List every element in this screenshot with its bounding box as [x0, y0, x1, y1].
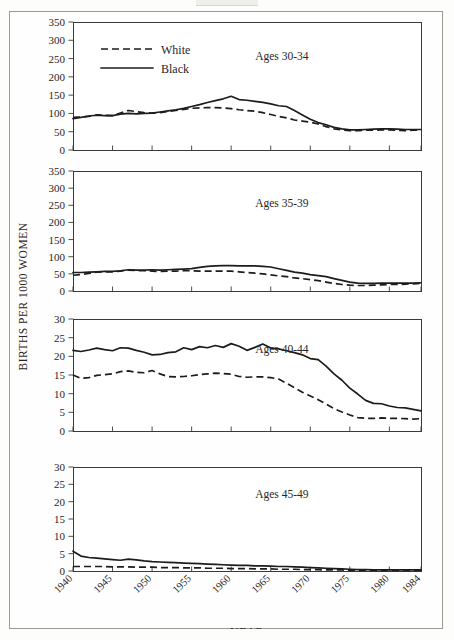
y-tick-label: 15: [54, 369, 66, 381]
x-tick-label: 1975: [329, 573, 352, 596]
legend-label-white: White: [161, 43, 190, 57]
panel-title: Ages 30-34: [255, 50, 309, 63]
panel-4: 051015202530Ages 45-49: [54, 461, 422, 577]
y-tick-label: 50: [54, 126, 66, 138]
y-tick-label: 0: [60, 285, 66, 297]
y-tick-label: 100: [49, 107, 66, 119]
y-tick-label: 0: [60, 144, 66, 156]
y-tick-label: 20: [54, 350, 66, 362]
y-tick-label: 25: [54, 478, 66, 490]
y-tick-label: 20: [54, 496, 66, 508]
panel-title: Ages 45-49: [255, 488, 309, 501]
y-tick-label: 0: [60, 425, 66, 437]
y-tick-label: 30: [54, 313, 66, 325]
y-tick-label: 300: [49, 182, 66, 194]
panel-frame: [74, 320, 422, 432]
x-tick-label: 1984: [400, 572, 423, 595]
x-tick-label: 1955: [170, 573, 193, 596]
y-tick-label: 350: [49, 165, 66, 177]
y-tick-label: 350: [49, 16, 66, 28]
panel-frame: [74, 468, 422, 572]
y-tick-label: 200: [49, 71, 66, 83]
figure-page: 050100150200250300350Ages 30-34050100150…: [0, 0, 454, 640]
y-tick-label: 300: [49, 34, 66, 46]
y-tick-label: 250: [49, 199, 66, 211]
y-tick-label: 5: [60, 406, 66, 418]
scan-artifact: [196, 0, 258, 6]
x-tick-label: 1950: [131, 573, 154, 596]
y-tick-label: 5: [60, 548, 66, 560]
y-tick-label: 50: [54, 268, 66, 280]
x-tick-label: 1970: [289, 573, 312, 596]
multi-panel-line-chart: 050100150200250300350Ages 30-34050100150…: [9, 11, 443, 629]
panel-1: 050100150200250300350Ages 30-34: [49, 16, 422, 156]
x-tick-label: 1980: [368, 573, 391, 596]
panel-frame: [74, 23, 422, 151]
y-tick-label: 25: [54, 332, 66, 344]
y-tick-label: 10: [54, 530, 66, 542]
y-tick-label: 200: [49, 216, 66, 228]
panel-title: Ages 40-44: [255, 343, 309, 356]
y-tick-label: 250: [49, 53, 66, 65]
chart-area: 050100150200250300350Ages 30-34050100150…: [9, 11, 443, 629]
panel-title: Ages 35-39: [255, 197, 309, 210]
y-axis-title: BIRTHS PER 1000 WOMEN: [17, 222, 29, 370]
x-tick-label: 1960: [210, 573, 233, 596]
x-axis-title: YEAR: [230, 626, 263, 629]
x-axis-labels: 1940194519501955196019651970197519801984: [52, 572, 423, 595]
y-tick-label: 150: [49, 89, 66, 101]
panel-frame: [74, 172, 422, 292]
y-tick-label: 15: [54, 513, 66, 525]
x-tick-label: 1965: [250, 573, 273, 596]
y-tick-label: 30: [54, 461, 66, 473]
panel-2: 050100150200250300350Ages 35-39: [49, 165, 422, 297]
panel-3: 051015202530Ages 40-44: [54, 313, 422, 437]
y-tick-label: 10: [54, 388, 66, 400]
x-tick-label: 1940: [52, 573, 75, 596]
x-tick-label: 1945: [91, 573, 114, 596]
y-tick-label: 100: [49, 251, 66, 263]
y-tick-label: 150: [49, 234, 66, 246]
legend-label-black: Black: [161, 62, 189, 76]
